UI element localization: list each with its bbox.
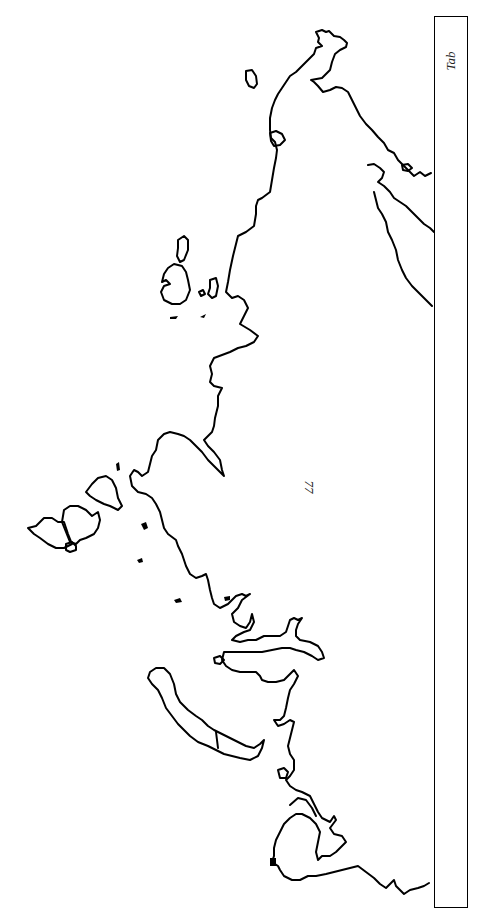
islet-4 <box>141 522 148 530</box>
island-e <box>208 278 218 298</box>
long-island-divider <box>216 732 218 748</box>
side-tab-frame: Tab <box>434 16 468 908</box>
islet-3 <box>116 462 120 471</box>
island-a <box>246 70 257 88</box>
island-f <box>199 290 205 296</box>
inlet-shore <box>374 192 432 306</box>
long-island <box>148 668 264 760</box>
island-l <box>278 768 288 778</box>
island-d <box>161 264 190 304</box>
islet-5 <box>137 558 143 563</box>
mainland-coastline <box>130 30 431 894</box>
islet-6 <box>174 598 182 603</box>
islet-2 <box>200 314 206 318</box>
island-h <box>62 506 100 544</box>
islet-1 <box>170 316 178 319</box>
inlet-small-island <box>402 164 412 171</box>
region-number-label: 77 <box>301 481 317 494</box>
islet-8 <box>270 858 276 866</box>
islet-7 <box>224 596 230 601</box>
coastline-map <box>0 0 485 918</box>
island-c <box>177 236 188 262</box>
island-g <box>86 476 122 510</box>
tab-label: Tab <box>443 51 459 70</box>
